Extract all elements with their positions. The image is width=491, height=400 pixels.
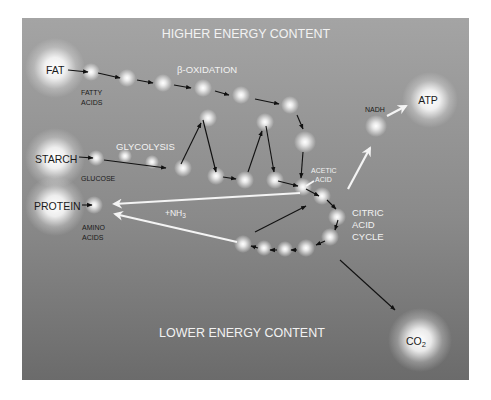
label-nadh: NADH: [365, 106, 385, 113]
node-fat: FAT: [46, 64, 65, 76]
node-atp: ATP: [418, 94, 438, 106]
heading-lower-energy: LOWER ENERGY CONTENT: [159, 326, 325, 340]
node-starch: STARCH: [35, 153, 77, 165]
heading-higher-energy: HIGHER ENERGY CONTENT: [162, 27, 331, 41]
metabolism-energy-diagram: HIGHER ENERGY CONTENT LOWER ENERGY CONTE…: [0, 0, 491, 400]
node-protein: PROTEIN: [34, 200, 81, 212]
label-glucose: GLUCOSE: [81, 175, 116, 182]
label-beta-oxidation: β-OXIDATION: [177, 64, 237, 75]
label-glycolysis: GLYCOLYSIS: [116, 141, 175, 152]
